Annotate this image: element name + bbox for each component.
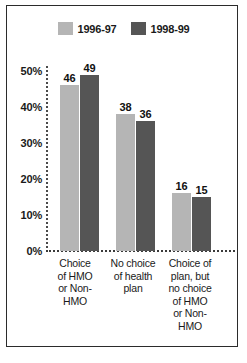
legend-swatch-icon-1996-97 xyxy=(58,22,73,35)
y-axis-tick-30: 30% xyxy=(2,137,42,149)
legend-entry-1998-99: 1998-99 xyxy=(131,22,190,35)
bar-value-label-1998-99-group-2: 36 xyxy=(135,108,156,120)
category-label-3: Choice of plan, but no choice of HMO or … xyxy=(159,257,221,332)
legend-label-1998-99: 1998-99 xyxy=(151,23,190,35)
bar-value-label-1996-97-group-2: 38 xyxy=(115,101,136,113)
y-axis-tick-labels: 0%10%20%30%40%50% xyxy=(0,0,42,363)
bar-value-label-1996-97-group-3: 16 xyxy=(171,180,192,192)
bar-1996-97-group-3 xyxy=(172,193,191,251)
bar-group-1: 4649 xyxy=(60,71,99,251)
bar-value-label-1998-99-group-1: 49 xyxy=(79,62,100,74)
bar-1996-97-group-1 xyxy=(60,85,79,251)
y-axis-tick-40: 40% xyxy=(2,101,42,113)
bar-1998-99-group-1 xyxy=(80,75,99,251)
y-axis-tick-50: 50% xyxy=(2,65,42,77)
bar-group-3: 1615 xyxy=(172,71,211,251)
bar-value-label-1996-97-group-1: 46 xyxy=(59,72,80,84)
plot-area: 464938361615 xyxy=(46,71,235,251)
y-axis-tick-10: 10% xyxy=(2,209,42,221)
legend-swatch-icon-1998-99 xyxy=(131,22,146,35)
bar-1996-97-group-2 xyxy=(116,114,135,251)
legend-entry-1996-97: 1996-97 xyxy=(58,22,117,35)
bar-1998-99-group-2 xyxy=(136,121,155,251)
legend-label-1996-97: 1996-97 xyxy=(78,23,117,35)
bar-value-label-1998-99-group-3: 15 xyxy=(191,184,212,196)
y-axis-tick-0: 0% xyxy=(2,245,42,257)
y-axis-tick-20: 20% xyxy=(2,173,42,185)
bar-group-2: 3836 xyxy=(116,71,155,251)
category-label-2: No choice of health plan xyxy=(104,257,162,295)
bar-1998-99-group-3 xyxy=(192,197,211,251)
category-label-1: Choice of HMO or Non- HMO xyxy=(47,257,103,307)
chart-page: 1996-97 1998-99 0%10%20%30%40%50% 464938… xyxy=(0,0,247,363)
